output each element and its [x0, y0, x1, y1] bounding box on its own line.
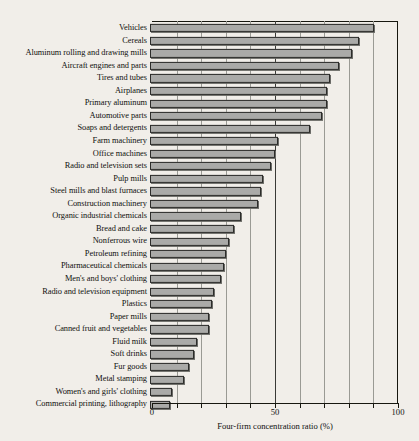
bar-row: Plastics: [0, 298, 419, 311]
bar-category-label: Aircraft engines and parts: [0, 62, 150, 70]
bar-row: Paper mills: [0, 311, 419, 324]
bar-track: [150, 198, 419, 211]
bar: [150, 137, 278, 145]
bar-track: [150, 298, 419, 311]
bar-track: [150, 361, 419, 374]
bar-row: Canned fruit and vegetables: [0, 323, 419, 336]
bar-row: Steel mills and blast furnaces: [0, 185, 419, 198]
bar: [150, 275, 221, 283]
bar-category-label: Paper mills: [0, 313, 150, 321]
bar-row: Metal stamping: [0, 373, 419, 386]
bar-category-label: Plastics: [0, 300, 150, 308]
bar-track: [150, 173, 419, 186]
bar: [150, 99, 327, 107]
x-tick: [324, 403, 325, 408]
bar-category-label: Automotive parts: [0, 112, 150, 120]
bar-track: [150, 135, 419, 148]
bar-track: [150, 122, 419, 135]
bar-row: Fur goods: [0, 361, 419, 374]
bar-category-label: Bread and cake: [0, 225, 150, 233]
bar-category-label: Nonferrous wire: [0, 237, 150, 245]
bar: [150, 200, 258, 208]
bar-track: [150, 311, 419, 324]
bar: [150, 338, 197, 346]
bar: [150, 87, 327, 95]
bar-row: Pharmaceutical chemicals: [0, 260, 419, 273]
x-tick: [177, 403, 178, 408]
bar-track: [150, 210, 419, 223]
bar-row: Fluid milk: [0, 336, 419, 349]
bar-track: [150, 72, 419, 85]
bar: [150, 162, 271, 170]
bar-track: [150, 160, 419, 173]
bar-category-label: Steel mills and blast furnaces: [0, 187, 150, 195]
bar-row: Automotive parts: [0, 110, 419, 123]
bar: [150, 49, 352, 57]
bar-category-label: Organic industrial chemicals: [0, 212, 150, 220]
bar-category-label: Radio and television equipment: [0, 288, 150, 296]
bar: [150, 37, 359, 45]
bar-category-label: Farm machinery: [0, 137, 150, 145]
bar: [150, 125, 310, 133]
x-tick: [373, 403, 374, 408]
bar-category-label: Vehicles: [0, 24, 150, 32]
x-tick: [349, 403, 350, 408]
bar: [150, 288, 214, 296]
bar-track: [150, 147, 419, 160]
bar-row: Airplanes: [0, 85, 419, 98]
bar-row: Commercial printing, lithography: [0, 398, 419, 411]
bar: [150, 150, 275, 158]
bar-category-label: Men's and boys' clothing: [0, 275, 150, 283]
bar-track: [150, 97, 419, 110]
bar: [150, 175, 263, 183]
bar: [150, 74, 330, 82]
bar-chart: VehiclesCerealsAluminum rolling and draw…: [0, 0, 419, 441]
bar-row: Petroleum refining: [0, 248, 419, 261]
bar-category-label: Fluid milk: [0, 338, 150, 346]
bar: [150, 237, 229, 245]
bar-track: [150, 60, 419, 73]
bar-track: [150, 348, 419, 361]
bar-track: [150, 35, 419, 48]
bar-row: Men's and boys' clothing: [0, 273, 419, 286]
bar-row: Bread and cake: [0, 223, 419, 236]
bar-track: [150, 398, 419, 411]
bar: [150, 363, 189, 371]
bar: [150, 187, 261, 195]
bar-row: Aircraft engines and parts: [0, 60, 419, 73]
bar-row: Tires and tubes: [0, 72, 419, 85]
bar-category-label: Metal stamping: [0, 375, 150, 383]
bar: [150, 212, 241, 220]
x-tick: [250, 403, 251, 408]
bar-category-label: Office machines: [0, 150, 150, 158]
bar: [150, 250, 226, 258]
bar-row: Radio and television equipment: [0, 285, 419, 298]
x-tick: [300, 403, 301, 408]
bar-category-label: Fur goods: [0, 363, 150, 371]
bar-row: Primary aluminum: [0, 97, 419, 110]
bar-track: [150, 110, 419, 123]
bar-track: [150, 22, 419, 35]
bar-track: [150, 336, 419, 349]
bar-row: Radio and television sets: [0, 160, 419, 173]
bar-category-label: Petroleum refining: [0, 250, 150, 258]
bar-category-label: Soaps and detergents: [0, 124, 150, 132]
bar: [150, 300, 212, 308]
bar-category-label: Airplanes: [0, 87, 150, 95]
bar-track: [150, 260, 419, 273]
bar-row: Nonferrous wire: [0, 235, 419, 248]
bar: [150, 24, 374, 32]
bar-track: [150, 47, 419, 60]
bar-category-label: Pharmaceutical chemicals: [0, 262, 150, 270]
bar-row: Office machines: [0, 147, 419, 160]
bar-row: Women's and girls' clothing: [0, 386, 419, 399]
bar-track: [150, 386, 419, 399]
bar-category-label: Radio and television sets: [0, 162, 150, 170]
bar-row: Construction machinery: [0, 198, 419, 211]
x-tick-label: 50: [271, 408, 280, 417]
bar-rows: VehiclesCerealsAluminum rolling and draw…: [0, 22, 419, 411]
bar-track: [150, 223, 419, 236]
x-axis-title: Four-firm concentration ratio (%): [152, 421, 398, 431]
bar-track: [150, 235, 419, 248]
bar-row: Cereals: [0, 35, 419, 48]
